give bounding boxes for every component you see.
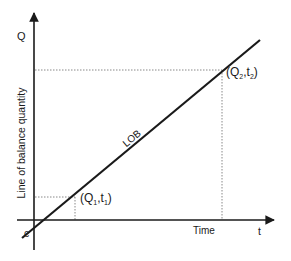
x-axis-symbol: t [258,225,261,237]
y-axis-symbol: Q [17,30,26,42]
origin-label: c [24,227,29,239]
point-1-label: (Q1,t1) [80,191,112,206]
point-2-label: (Q2,t2) [226,65,258,80]
y-axis-label: Line of balance quantity [15,87,27,199]
x-axis-label: Time [193,225,215,236]
lob-diagram: Q Line of balance quantity c Time t LOB … [0,0,291,261]
